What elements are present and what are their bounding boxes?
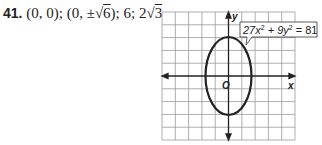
y-axis-label: y	[231, 11, 238, 22]
origin-label: O	[222, 80, 230, 91]
ellipse-graph: O x y 27x2 + 9y2 = 81	[0, 0, 322, 145]
equation-text: 27x2 + 9y2 = 81	[242, 24, 318, 36]
x-axis-label: x	[287, 80, 294, 91]
equation-callout: 27x2 + 9y2 = 81	[240, 22, 318, 45]
